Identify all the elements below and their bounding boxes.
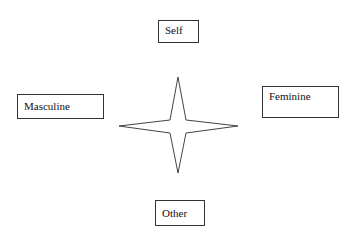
node-other: Other	[155, 200, 205, 226]
node-label: Feminine	[269, 90, 311, 102]
node-feminine: Feminine	[262, 86, 339, 118]
node-self: Self	[158, 20, 199, 43]
node-label: Masculine	[24, 100, 70, 112]
node-label: Self	[165, 24, 183, 36]
node-masculine: Masculine	[17, 94, 104, 119]
node-label: Other	[162, 207, 187, 219]
